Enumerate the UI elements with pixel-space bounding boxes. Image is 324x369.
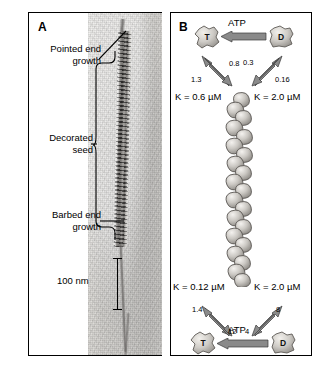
rate-bottom-left-on: 1.4 xyxy=(192,305,202,314)
scale-bar-cap-top xyxy=(113,258,122,259)
monomer-adp-top: D xyxy=(268,25,294,49)
rate-top-left-on: 0.8 xyxy=(229,59,239,68)
atp-label-top: ATP xyxy=(228,17,246,28)
scale-bar-line xyxy=(117,258,118,310)
figure-root: A Pointed end growth Decorated seed xyxy=(0,0,324,369)
rate-top-left-off: 1.3 xyxy=(191,75,201,84)
label-decorated-seed-line1: Decorated xyxy=(49,132,93,143)
label-decorated-seed: Decorated seed xyxy=(31,132,93,155)
scale-bar-label: 100 nm xyxy=(57,275,89,286)
monomer-atp-bottom-label: T xyxy=(190,331,216,355)
atp-arrow-bottom xyxy=(216,338,270,350)
atp-label-bottom: ATP xyxy=(228,324,246,335)
monomer-adp-bottom-label: D xyxy=(270,331,296,355)
panel-b-letter: B xyxy=(179,21,188,33)
k-value-top-left: K = 0.6 µM xyxy=(175,91,221,102)
rate-top-right-on: 0.16 xyxy=(275,75,290,84)
label-pointed-end-growth: Pointed end growth xyxy=(33,43,101,66)
monomer-adp-top-label: D xyxy=(268,25,294,49)
actin-filament xyxy=(218,91,266,287)
label-barbed-end-growth-line1: Barbed end xyxy=(52,209,101,220)
k-value-bottom-right: K = 2.0 µM xyxy=(254,281,300,292)
label-barbed-end-growth: Barbed end growth xyxy=(33,209,101,232)
monomer-atp-bottom: T xyxy=(190,331,216,355)
panel-a-letter: A xyxy=(38,21,47,33)
label-barbed-end-growth-line2: growth xyxy=(72,221,101,232)
rate-top-right-off: 0.3 xyxy=(243,58,253,67)
panel-b: B T D ATP xyxy=(170,12,312,356)
leader-barbed-end xyxy=(100,218,124,224)
k-value-bottom-left: K = 0.12 µM xyxy=(173,281,225,292)
atp-arrow-top xyxy=(220,31,268,43)
scale-bar-cap-bottom xyxy=(113,309,122,310)
leader-decorated-seed xyxy=(91,142,97,146)
label-decorated-seed-line2: seed xyxy=(72,144,93,155)
rate-bottom-right-off: 8 xyxy=(276,305,280,314)
panel-a: A Pointed end growth Decorated seed xyxy=(28,12,162,356)
monomer-atp-top: T xyxy=(194,25,220,49)
monomer-adp-bottom: D xyxy=(270,331,296,355)
monomer-atp-top-label: T xyxy=(194,25,220,49)
